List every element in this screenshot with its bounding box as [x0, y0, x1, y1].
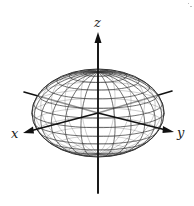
y-axis-label: y [176, 125, 185, 140]
y-arrow-icon [163, 126, 175, 133]
z-arrow-icon [95, 32, 102, 43]
speck [188, 3, 189, 4]
z-axis-label: z [93, 15, 101, 30]
ellipsoid-diagram: z x y [0, 0, 194, 206]
x-axis-label: x [11, 126, 19, 141]
speck [190, 6, 192, 7]
x-arrow-icon [23, 127, 34, 134]
